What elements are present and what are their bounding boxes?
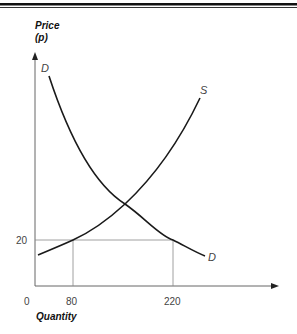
x-axis-label: Quantity — [36, 311, 77, 322]
demand-label-bottom: D — [208, 251, 216, 263]
y-axis-arrow-icon — [32, 52, 38, 60]
supply-curve — [38, 98, 200, 255]
supply-label: S — [200, 84, 208, 96]
supply-demand-chart: Price (p) D D S 20 0 80 220 Quantity — [0, 0, 297, 334]
y-axis-unit: (p) — [35, 32, 48, 43]
x-tick-220: 220 — [164, 296, 181, 307]
x-tick-0: 0 — [24, 296, 30, 307]
demand-curve — [49, 76, 205, 256]
top-border-thin — [0, 7, 297, 8]
x-tick-80: 80 — [66, 296, 78, 307]
y-tick-20: 20 — [16, 235, 28, 246]
x-axis-arrow-icon — [271, 283, 279, 289]
demand-label-top: D — [41, 62, 49, 74]
y-axis-label: Price — [35, 20, 60, 31]
top-border-thick — [0, 3, 297, 6]
